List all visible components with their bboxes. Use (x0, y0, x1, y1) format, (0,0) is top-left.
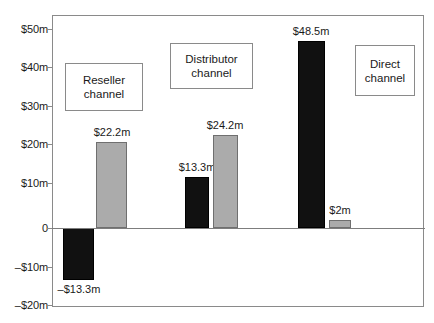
bar-distributor-dark[interactable] (185, 177, 209, 228)
bar-reseller-dark[interactable] (63, 228, 94, 280)
y-axis-mark-40m (47, 67, 53, 68)
y-axis-mark-neg20m (47, 305, 53, 306)
bar-label-reseller-gray: $22.2m (81, 126, 143, 138)
callout-reseller-channel: Reseller channel (65, 63, 143, 111)
bar-chart: $50m $40m $30m $20m $10m 0 –$10m –$20m –… (0, 0, 434, 323)
callout-distributor-channel: Distributor channel (170, 43, 253, 89)
y-axis-mark-30m (47, 106, 53, 107)
y-axis-mark-10m (47, 183, 53, 184)
bar-direct-gray[interactable] (329, 220, 351, 228)
y-axis-tick-30m: $30m (0, 100, 48, 112)
y-axis-mark-50m (47, 29, 53, 30)
callout-direct-line2: channel (365, 71, 405, 85)
callout-distributor-line2: channel (185, 66, 237, 80)
callout-reseller-line2: channel (83, 87, 125, 101)
y-axis-mark-20m (47, 144, 53, 145)
y-axis-mark-neg10m (47, 267, 53, 268)
y-axis-tick-10m: $10m (0, 177, 48, 189)
y-axis-tick-0: 0 (0, 222, 48, 234)
y-axis-tick-neg20m: –$20m (0, 299, 48, 311)
y-axis-tick-20m: $20m (0, 138, 48, 150)
bar-label-direct-gray: $2m (309, 204, 371, 216)
zero-baseline (52, 228, 425, 229)
callout-direct-line1: Direct (365, 57, 405, 71)
callout-distributor-line1: Distributor (185, 52, 237, 66)
y-axis-tick-40m: $40m (0, 61, 48, 73)
bar-label-direct-dark: $48.5m (280, 25, 342, 37)
y-axis-tick-neg10m: –$10m (0, 261, 48, 273)
bar-label-distributor-gray: $24.2m (194, 119, 256, 131)
bar-direct-dark[interactable] (298, 41, 325, 228)
bar-distributor-gray[interactable] (213, 135, 238, 228)
bar-label-reseller-dark: –$13.3m (48, 283, 110, 295)
bar-reseller-gray[interactable] (96, 142, 127, 228)
y-axis-tick-50m: $50m (0, 23, 48, 35)
callout-direct-channel: Direct channel (355, 45, 415, 96)
callout-reseller-line1: Reseller (83, 73, 125, 87)
